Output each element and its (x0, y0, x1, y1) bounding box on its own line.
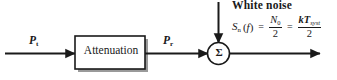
formula-n0-numerator: N0 (269, 15, 281, 27)
attenuation-block-label: Attenuation (77, 45, 145, 57)
formula-lhs-subscript: n (238, 26, 241, 33)
white-noise-label: White noise (232, 0, 292, 12)
formula-ktsyst-numerator: kTsyst (298, 15, 321, 27)
formula-tsyst-subscript: syst (310, 19, 320, 26)
block-diagram-canvas: White noise Sn (f) = N0 2 = kTsyst 2 Pt … (0, 0, 337, 80)
formula-term-ktsyst-over-2: kTsyst 2 (298, 15, 321, 40)
formula-term-n0-over-2: N0 2 (269, 15, 282, 40)
formula-argument: (f) (243, 22, 253, 33)
received-power-label: Pr (163, 35, 173, 48)
formula-ktsyst-denominator: 2 (306, 28, 313, 40)
formula-equals-1: = (258, 22, 264, 32)
noise-psd-formula: Sn (f) = N0 2 = kTsyst 2 (232, 15, 321, 40)
formula-n0-subscript: 0 (277, 19, 280, 26)
formula-lhs: Sn (232, 21, 241, 34)
transmit-power-subscript: t (36, 40, 38, 48)
received-power-symbol: P (163, 34, 170, 46)
formula-n0-denominator: 2 (272, 28, 279, 40)
formula-equals-2: = (287, 22, 293, 32)
formula-argument-symbol: f (247, 21, 250, 33)
received-power-subscript: r (170, 40, 173, 48)
transmit-power-label: Pt (29, 35, 38, 48)
summation-sigma-symbol: Σ (209, 47, 229, 58)
transmit-power-symbol: P (29, 34, 36, 46)
